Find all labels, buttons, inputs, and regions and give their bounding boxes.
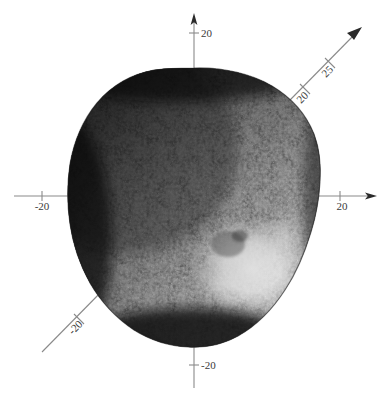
tick-label-x-negative: -20 bbox=[35, 200, 50, 212]
tick-label-z-negative: -20 bbox=[66, 317, 85, 336]
figure-canvas: 20 -20 -20 20 -20 20 25 bbox=[0, 0, 388, 398]
tick-label-z-positive-20: 20 bbox=[294, 89, 311, 106]
tick-label-z-positive-25: 25 bbox=[319, 63, 336, 80]
tick-label-x-positive: 20 bbox=[337, 200, 349, 212]
tick-label-y-positive: 20 bbox=[201, 27, 213, 39]
tick-labels-layer: 20 -20 -20 20 -20 20 25 bbox=[0, 0, 388, 398]
tick-label-y-negative: -20 bbox=[201, 359, 216, 371]
